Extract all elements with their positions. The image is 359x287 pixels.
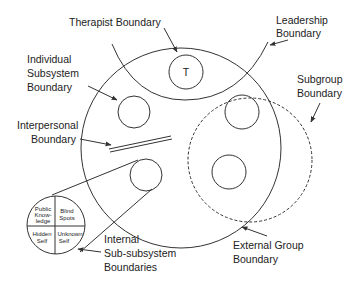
johari-circle <box>27 196 85 254</box>
arrow-leadership <box>270 40 288 45</box>
label-internal-3: Boundaries <box>104 261 157 273</box>
label-interpersonal-1: Interpersonal <box>17 119 78 131</box>
group-boundaries-diagram: T Public Know- ledge Blind Spots Hidden … <box>0 0 359 287</box>
zoom-line-top <box>52 160 138 195</box>
arrow-subgroup <box>311 103 320 122</box>
label-subgroup-1: Subgroup <box>297 73 343 85</box>
johari-unknown-1: Unknown <box>57 231 82 237</box>
label-individual-3: Boundary <box>27 81 73 93</box>
label-external-1: External Group <box>233 239 304 251</box>
label-individual-1: Individual <box>27 53 71 65</box>
therapist-symbol: T <box>183 66 190 78</box>
johari-hidden-1: Hidden <box>32 231 51 237</box>
label-subgroup-2: Boundary <box>297 87 343 99</box>
label-internal-2: Sub-subsystem <box>104 247 177 259</box>
arrow-individual <box>88 86 117 100</box>
label-therapist-boundary: Therapist Boundary <box>69 16 161 28</box>
subgroup-boundary <box>188 98 312 222</box>
johari-hidden-2: Self <box>37 238 48 244</box>
interpersonal-line-2 <box>110 139 172 152</box>
johari-blind-2: Spots <box>59 215 74 221</box>
johari-public-3: ledge <box>36 218 51 224</box>
label-internal-1: Internal <box>104 233 139 245</box>
label-leadership-1: Leadership <box>276 14 328 26</box>
individual-circle-right-bottom <box>212 155 246 189</box>
label-interpersonal-2: Boundary <box>31 133 77 145</box>
arrow-interpersonal <box>80 139 111 145</box>
label-individual-2: Subsystem <box>27 67 79 79</box>
johari-unknown-2: Self <box>59 238 70 244</box>
arrow-external <box>242 227 267 236</box>
label-leadership-2: Boundary <box>276 27 322 39</box>
external-group-boundary <box>81 48 281 248</box>
label-external-2: Boundary <box>233 253 279 265</box>
interpersonal-line-1 <box>109 136 171 149</box>
individual-circle-right-top <box>225 95 259 129</box>
individual-circle-left-top <box>118 96 150 128</box>
individual-circle-left-bottom <box>130 159 162 191</box>
johari-blind-1: Blind <box>60 208 73 214</box>
